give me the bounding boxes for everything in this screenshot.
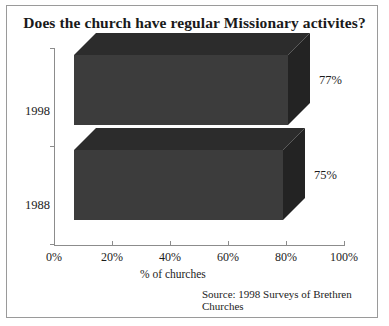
x-axis-tick-100 [344,241,345,246]
x-axis-label-40: 40% [140,250,200,265]
x-axis-label-0: 0% [24,250,84,265]
bar-1988-top-face [74,128,305,150]
bar-1998-top-face [74,33,310,55]
bar-1988-front-face [74,150,283,220]
x-axis-tick-60 [228,241,229,246]
bar-1988-value-label: 75% [314,168,337,183]
bar-1998-front-face [74,55,288,125]
y-axis-tick-mid [50,146,55,147]
plot-area: 77% 75% 1998 1988 0% 20% 40% [0,0,389,326]
y-axis-label-1988: 1988 [6,198,50,213]
bar-1998-value-label: 77% [319,73,342,88]
x-axis-tick-80 [286,241,287,246]
source-note: Source: 1998 Surveys of Brethren Churche… [202,288,389,312]
x-axis-tick-0 [54,241,55,246]
y-axis-label-1998: 1998 [6,104,50,119]
x-axis-label-60: 60% [198,250,258,265]
x-axis-tick-20 [112,241,113,246]
chart-figure: Does the church have regular Missionary … [0,0,389,326]
x-axis-title: % of churches [140,268,206,280]
x-axis-tick-40 [170,241,171,246]
x-axis-label-20: 20% [82,250,142,265]
x-axis-label-80: 80% [256,250,316,265]
y-axis-tick-top [50,48,55,49]
x-axis-line [54,245,344,246]
x-axis-label-100: 100% [314,250,374,265]
